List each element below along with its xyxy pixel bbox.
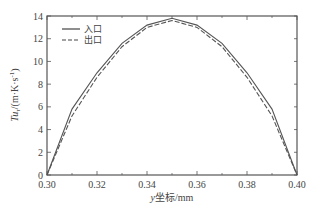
y-tick-label: 12 (33, 33, 43, 44)
y-tick-label: 10 (33, 56, 43, 67)
y-axis-ticks: 02468101214 (33, 11, 297, 181)
y-tick-label: 8 (38, 79, 43, 90)
x-tick-label: 0.38 (238, 179, 256, 190)
x-tick-label: 0.30 (38, 179, 56, 190)
legend: 入口出口 (62, 24, 102, 45)
legend-label: 出口 (84, 34, 102, 45)
y-tick-label: 14 (33, 11, 43, 22)
y-tick-label: 6 (38, 101, 43, 112)
x-tick-label: 0.34 (138, 179, 156, 190)
x-tick-label: 0.36 (188, 179, 206, 190)
x-tick-label: 0.40 (288, 179, 306, 190)
y-tick-label: 2 (38, 147, 43, 158)
x-axis-ticks: 0.300.320.340.360.380.40 (38, 16, 306, 190)
line-chart: 0.300.320.340.360.380.40 02468101214 入口出… (0, 0, 322, 219)
x-axis-title: y坐标/mm (150, 192, 194, 203)
legend-label: 入口 (84, 24, 102, 34)
x-tick-label: 0.32 (88, 179, 106, 190)
y-axis-title: Tuτ/(m·K·s-1) (8, 68, 22, 121)
y-tick-label: 4 (38, 124, 43, 135)
y-tick-label: 0 (38, 170, 43, 181)
